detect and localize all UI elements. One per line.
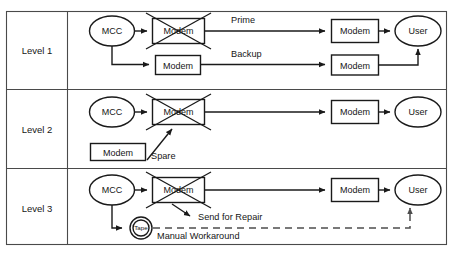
manual-workaround-label: Manual Workaround [157, 231, 240, 241]
level-1-user-node[interactable]: User [395, 16, 441, 46]
level-2-mcc-node[interactable]: MCC [90, 97, 135, 127]
level-2-receiving-modem-node[interactable]: Modem [332, 101, 379, 124]
level-3-failed-modem-node[interactable]: Modem [146, 172, 211, 208]
prime-path-label: Prime [231, 15, 255, 25]
prime-receiving-modem-node-label: Modem [340, 26, 370, 36]
backup-modem-node-label: Modem [163, 61, 193, 71]
mcc-node-label: MCC [102, 107, 123, 117]
level-3-tape-node[interactable]: Tape [130, 217, 152, 239]
level-1-mcc-node[interactable]: MCC [90, 16, 135, 46]
send-for-repair-label: Send for Repair [198, 212, 262, 222]
level-1-prime-receiving-modem-node[interactable]: Modem [332, 20, 379, 43]
level-3-user-node[interactable]: User [395, 175, 441, 205]
mcc-node-label: MCC [102, 26, 123, 36]
level-3-receiving-modem-node[interactable]: Modem [332, 179, 379, 202]
level-1-label: Level 1 [22, 45, 53, 56]
level-3-mcc-node[interactable]: MCC [90, 175, 135, 205]
level-2-spare-modem-node[interactable]: Modem [91, 144, 146, 161]
backup-path-label: Backup [231, 49, 262, 59]
user-node-label: User [408, 107, 427, 117]
spare-modem-node-label: Modem [103, 148, 133, 158]
receiving-modem-node-label: Modem [340, 185, 370, 195]
level-2-user-node[interactable]: User [395, 97, 441, 127]
mcc-node-label: MCC [102, 185, 123, 195]
receiving-modem-node-label: Modem [340, 107, 370, 117]
level-1-failed-modem-node[interactable]: Modem [146, 13, 211, 49]
spare-label: Spare [151, 151, 176, 161]
level-3-label: Level 3 [22, 203, 53, 214]
backup-receiving-modem-node-label: Modem [340, 61, 370, 71]
level-2-failed-modem-node[interactable]: Modem [146, 94, 211, 130]
level-2-label: Level 2 [22, 124, 53, 135]
diagram-canvas: Level 1 MCC Modem Prime Modem [0, 0, 460, 257]
level-1-backup-modem-node[interactable]: Modem [156, 56, 201, 75]
tape-node-label: Tape [134, 224, 148, 231]
user-node-label: User [408, 185, 427, 195]
user-node-label: User [408, 26, 427, 36]
level-1-backup-receiving-modem-node[interactable]: Modem [332, 55, 379, 75]
